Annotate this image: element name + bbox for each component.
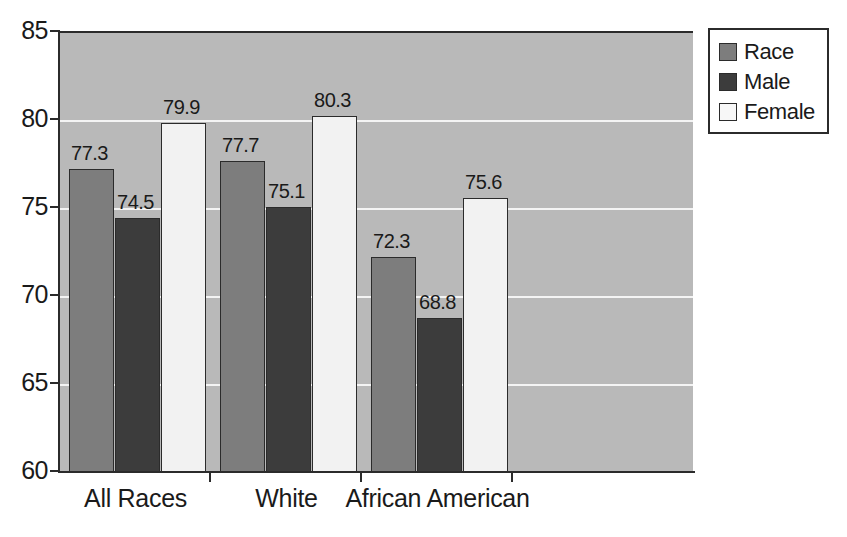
bar-value-label: 77.7: [211, 135, 270, 155]
x-axis-tick: [209, 471, 211, 482]
y-axis-tick: [50, 206, 60, 208]
legend-swatch-female: [719, 103, 737, 121]
y-axis-tick-label: 80: [2, 106, 48, 131]
y-axis-tick-label: 60: [2, 458, 48, 483]
bar[interactable]: [417, 318, 462, 471]
bar[interactable]: [266, 207, 311, 471]
bar[interactable]: [220, 161, 265, 471]
bar-chart: 606570758085 All RacesWhiteAfrican Ameri…: [0, 0, 847, 537]
legend-label-female: Female: [744, 101, 815, 123]
y-axis-tick-label: 85: [2, 18, 48, 43]
legend-item[interactable]: Race: [719, 37, 827, 67]
y-axis-tick: [50, 30, 60, 32]
y-axis-tick: [50, 118, 60, 120]
y-axis-line: [58, 31, 60, 473]
bar-value-label: 75.1: [257, 181, 316, 201]
y-axis-tick-label: 75: [2, 194, 48, 219]
legend-swatch-race: [719, 43, 737, 61]
bar-value-label: 77.3: [60, 143, 119, 163]
y-axis-tick: [50, 382, 60, 384]
legend-label-male: Male: [744, 71, 790, 93]
bar[interactable]: [161, 123, 206, 471]
x-axis-line: [58, 471, 695, 473]
y-axis-tick: [50, 470, 60, 472]
legend-label-race: Race: [744, 41, 794, 63]
y-axis-labels: 606570758085: [0, 0, 48, 537]
x-axis-category-label: African American: [288, 484, 588, 513]
bar-value-label: 72.3: [362, 231, 421, 251]
y-axis-tick-label: 70: [2, 282, 48, 307]
gridline: [60, 120, 693, 122]
bar-value-label: 79.9: [152, 97, 211, 117]
legend-item[interactable]: Male: [719, 67, 827, 97]
bar-value-label: 68.8: [408, 292, 467, 312]
x-axis-tick: [360, 471, 362, 482]
bar-value-label: 80.3: [303, 90, 362, 110]
bar[interactable]: [69, 169, 114, 471]
bar[interactable]: [371, 257, 416, 471]
y-axis-tick-label: 65: [2, 370, 48, 395]
bar[interactable]: [463, 198, 508, 471]
bar-value-label: 75.6: [454, 172, 513, 192]
legend-swatch-male: [719, 73, 737, 91]
bar-value-label: 74.5: [106, 192, 165, 212]
x-axis-tick: [511, 471, 513, 482]
y-axis-tick: [50, 294, 60, 296]
legend: Race Male Female: [708, 28, 829, 134]
bar[interactable]: [115, 218, 160, 471]
bar[interactable]: [312, 116, 357, 471]
legend-item[interactable]: Female: [719, 97, 827, 127]
